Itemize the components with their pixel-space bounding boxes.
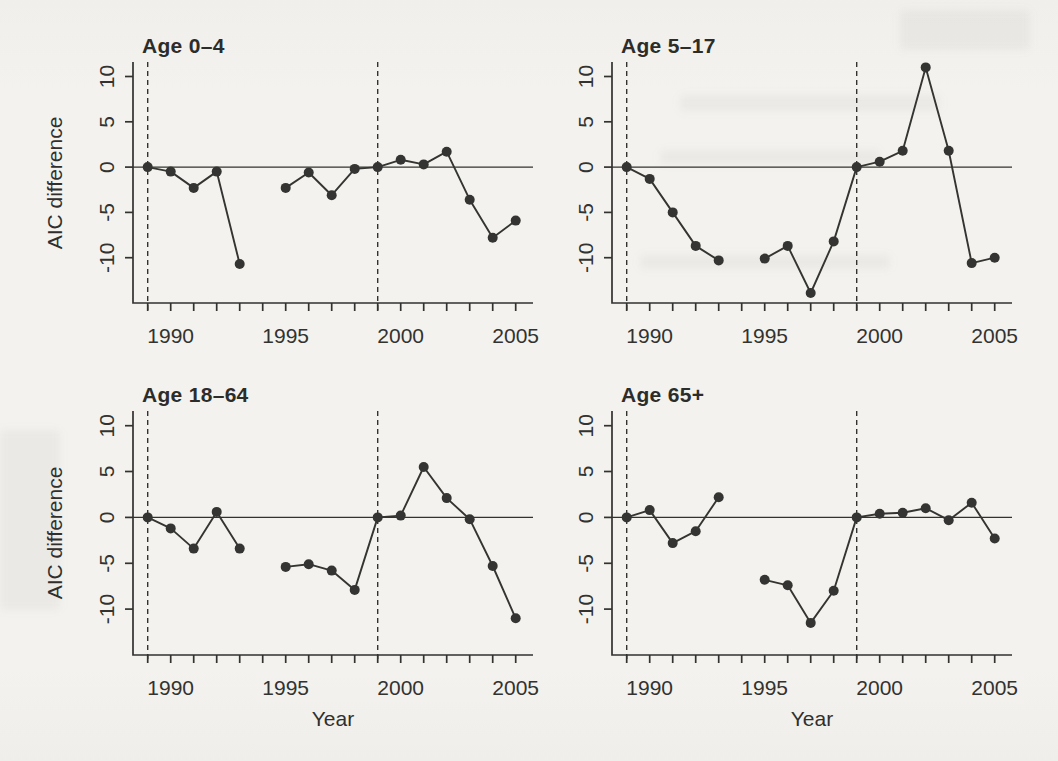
panel-title-age-65plus: Age 65+ <box>621 383 704 407</box>
data-point <box>304 168 314 178</box>
data-point <box>511 216 521 226</box>
panel-age-0-4: 19901995200020051050-5-10 <box>95 62 539 347</box>
y-tick-label: 0 <box>574 161 597 173</box>
panel-title-age-5-17: Age 5–17 <box>621 34 716 58</box>
data-point <box>327 566 337 576</box>
data-point <box>714 492 724 502</box>
data-point <box>189 183 199 193</box>
data-point <box>235 259 245 269</box>
data-point <box>373 512 383 522</box>
data-point <box>373 162 383 172</box>
data-point <box>212 507 222 517</box>
y-tick-label: -5 <box>574 554 597 573</box>
data-point <box>944 146 954 156</box>
y-tick-label: 5 <box>95 116 118 128</box>
data-point <box>212 167 222 177</box>
panel-age-18-64: 19901995200020051050-5-10 <box>95 411 539 699</box>
panel-title-age-0-4: Age 0–4 <box>142 34 225 58</box>
data-point <box>967 498 977 508</box>
panel-age-65-: 19901995200020051050-5-10 <box>574 411 1018 699</box>
data-point <box>622 512 632 522</box>
data-point <box>990 534 1000 544</box>
series-line <box>148 467 516 618</box>
data-point <box>442 493 452 503</box>
data-point <box>898 146 908 156</box>
x-tick-label: 2005 <box>971 324 1018 347</box>
data-point <box>235 544 245 554</box>
data-point <box>396 155 406 165</box>
x-tick-label: 2000 <box>856 676 903 699</box>
y-tick-label: 5 <box>574 116 597 128</box>
data-point <box>419 462 429 472</box>
data-point <box>189 544 199 554</box>
data-point <box>921 62 931 72</box>
y-tick-label: -5 <box>95 203 118 222</box>
data-point <box>990 253 1000 263</box>
y-tick-label: -5 <box>95 554 118 573</box>
data-point <box>806 288 816 298</box>
data-point <box>852 162 862 172</box>
x-tick-label: 1990 <box>626 676 673 699</box>
x-tick-label: 2000 <box>856 324 903 347</box>
series-line <box>627 67 995 293</box>
scanned-figure-page: 19901995200020051050-5-10199019952000200… <box>0 0 1058 761</box>
data-point <box>691 241 701 251</box>
y-tick-label: -10 <box>574 594 597 624</box>
data-point <box>760 254 770 264</box>
x-tick-label: 1995 <box>262 324 309 347</box>
y-tick-label: -5 <box>574 203 597 222</box>
data-point <box>783 580 793 590</box>
data-point <box>875 157 885 167</box>
data-point <box>281 183 291 193</box>
y-tick-label: 0 <box>574 512 597 524</box>
data-point <box>944 515 954 525</box>
data-point <box>852 512 862 522</box>
data-point <box>419 159 429 169</box>
y-tick-label: 0 <box>95 512 118 524</box>
data-point <box>714 255 724 265</box>
y-tick-label: -10 <box>574 243 597 273</box>
y-tick-label: 0 <box>95 161 118 173</box>
y-axis-title-top: AIC difference <box>43 117 67 250</box>
y-tick-label: 5 <box>574 466 597 478</box>
y-axis-title-bottom: AIC difference <box>43 467 67 600</box>
data-point <box>143 162 153 172</box>
axis-lines <box>612 62 1012 303</box>
series-line <box>148 152 516 264</box>
y-tick-label: -10 <box>95 243 118 273</box>
data-point <box>143 512 153 522</box>
data-point <box>166 523 176 533</box>
data-point <box>691 526 701 536</box>
x-tick-label: 2000 <box>377 324 424 347</box>
data-point <box>645 174 655 184</box>
axis-lines <box>133 62 533 303</box>
data-point <box>166 167 176 177</box>
x-tick-label: 1995 <box>741 676 788 699</box>
data-point <box>327 190 337 200</box>
x-tick-label: 1995 <box>262 676 309 699</box>
data-point <box>806 618 816 628</box>
x-tick-label: 1990 <box>147 676 194 699</box>
data-point <box>511 613 521 623</box>
data-point <box>829 586 839 596</box>
x-axis-title-left: Year <box>312 707 354 731</box>
plots-canvas: 19901995200020051050-5-10199019952000200… <box>0 0 1058 761</box>
data-point <box>396 511 406 521</box>
axis-lines <box>133 411 533 655</box>
data-point <box>898 508 908 518</box>
data-point <box>350 585 360 595</box>
data-point <box>304 559 314 569</box>
x-tick-label: 2005 <box>492 676 539 699</box>
data-point <box>488 233 498 243</box>
x-tick-label: 2005 <box>971 676 1018 699</box>
panel-title-age-18-64: Age 18–64 <box>142 383 249 407</box>
data-point <box>281 562 291 572</box>
y-tick-label: 5 <box>95 466 118 478</box>
data-point <box>829 236 839 246</box>
data-point <box>921 503 931 513</box>
data-point <box>760 575 770 585</box>
data-point <box>783 241 793 251</box>
panel-age-5-17: 19901995200020051050-5-10 <box>574 62 1018 347</box>
x-tick-label: 2000 <box>377 676 424 699</box>
data-point <box>622 162 632 172</box>
